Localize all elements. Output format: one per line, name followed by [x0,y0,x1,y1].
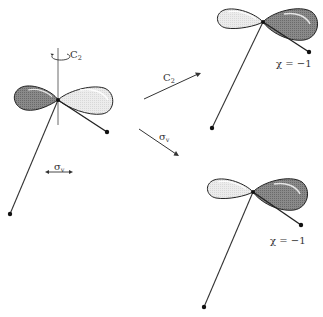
c2-operation-label: C2 [163,72,175,85]
sigma-character: χ = −1 [270,235,306,246]
c2-character: χ = −1 [276,58,312,69]
original-orbital: C2 σv [8,48,113,216]
sigma-operation-label: σv [159,131,170,144]
c2-result-orbital: χ = −1 [210,9,318,130]
light-lobe [58,87,113,114]
c2-axis-label: C2 [70,49,82,62]
sigma-result-orbital: χ = −1 [202,179,308,309]
symmetry-diagram: C2 σv C2 σv [0,0,323,317]
c2-operation-arrow: C2 [144,72,201,99]
bond-stick-long [10,100,58,214]
sigma-operation-arrow: σv [139,129,179,156]
rotation-arrow-icon [52,54,70,60]
